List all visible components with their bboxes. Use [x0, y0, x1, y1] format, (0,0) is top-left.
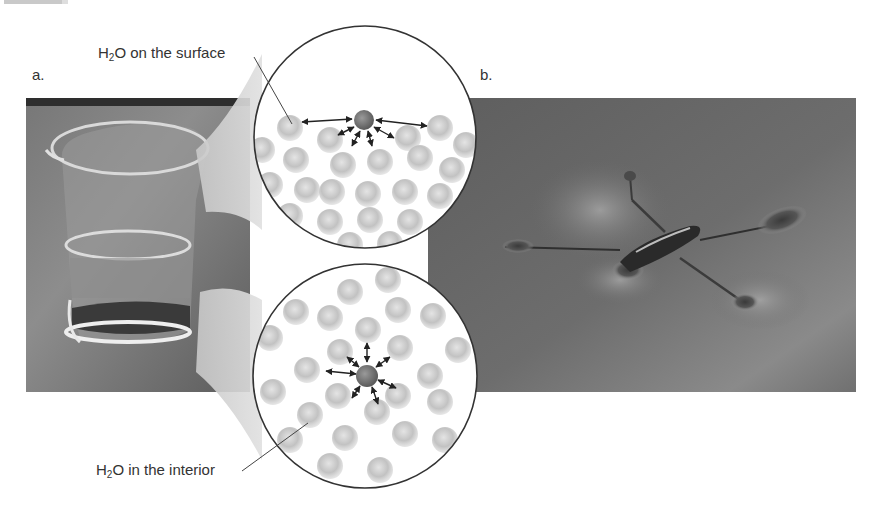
water-strider-photo [428, 98, 856, 392]
surface-callout-label: H2O on the surface [98, 44, 225, 61]
callout-text: H [96, 461, 107, 478]
callout-text: O in the interior [112, 461, 215, 478]
interior-molecule-highlighted [356, 365, 378, 387]
zoom-funnel-top [196, 54, 262, 230]
panel-b-label: b. [480, 66, 493, 83]
interior-magnifier-circle [253, 264, 477, 488]
zoom-funnel-bottom [196, 288, 262, 460]
callout-text: H [98, 44, 109, 61]
panel-a-label: a. [32, 66, 45, 83]
callout-text: O on the surface [114, 44, 225, 61]
surface-molecule-highlighted [354, 110, 374, 130]
interior-callout-label: H2O in the interior [96, 461, 215, 478]
figure-artwork [0, 0, 876, 509]
